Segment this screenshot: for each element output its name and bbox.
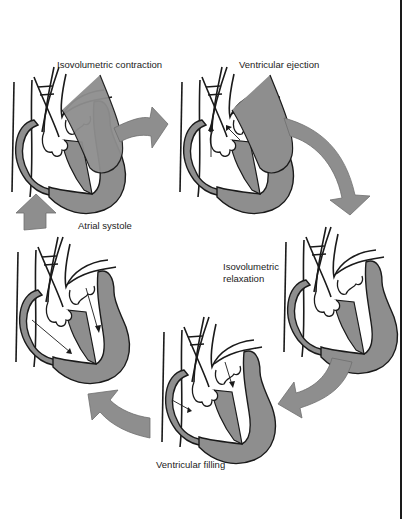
heart-isovolumetric-contraction	[12, 67, 125, 214]
label-ventricular-filling: Ventricular filling	[156, 459, 225, 470]
label-ventricular-ejection: Ventricular ejection	[239, 59, 319, 70]
label-isovolumetric-relaxation-line1: Isovolumetric	[223, 261, 279, 272]
arrow-filling-to-atrial	[88, 390, 150, 438]
heart-atrial-systole	[16, 237, 129, 384]
label-atrial-systole: Atrial systole	[78, 220, 132, 231]
label-isovolumetric-contraction: Isovolumetric contraction	[57, 59, 162, 70]
cardiac-cycle-diagram	[0, 0, 406, 519]
arrow-atrial-to-contraction	[16, 194, 56, 230]
heart-isovolumetric-relaxation	[284, 227, 397, 374]
heart-ventricular-ejection	[180, 67, 293, 214]
arrow-ejection-to-relaxation	[284, 118, 370, 215]
label-isovolumetric-relaxation-line2: relaxation	[223, 273, 264, 284]
arrow-relaxation-to-filling	[278, 358, 352, 418]
heart-ventricular-filling	[162, 317, 275, 464]
